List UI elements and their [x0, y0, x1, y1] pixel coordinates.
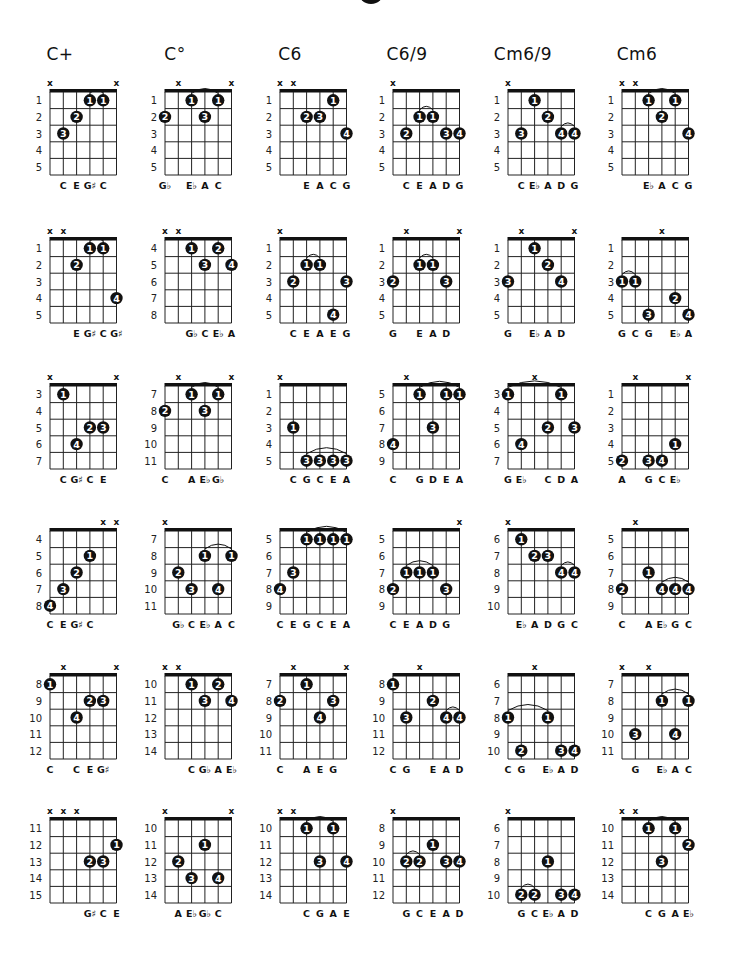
note-name: D — [557, 474, 565, 485]
chord-diagram: 12345xx1234GE♭AD — [478, 220, 588, 350]
fret-number: 12 — [372, 890, 385, 901]
note-name: C — [47, 764, 54, 775]
fret-number: 2 — [266, 260, 272, 271]
note-name: C — [290, 474, 297, 485]
finger-dot: 2 — [287, 275, 299, 287]
fret-number: 8 — [266, 696, 272, 707]
finger-dot: 1 — [427, 566, 439, 578]
svg-text:1: 1 — [416, 389, 423, 400]
fret-number: 3 — [608, 423, 614, 434]
fret-number: 6 — [494, 439, 500, 450]
svg-text:1: 1 — [290, 422, 297, 433]
note-name: C — [330, 180, 337, 191]
svg-text:4: 4 — [343, 856, 350, 867]
muted-string-icon: x — [114, 372, 120, 382]
fret-number: 2 — [494, 112, 500, 123]
note-name: C — [531, 908, 538, 919]
svg-text:3: 3 — [188, 584, 195, 595]
finger-dot: 2 — [669, 292, 681, 304]
svg-text:3: 3 — [60, 584, 67, 595]
finger-dot: 4 — [568, 889, 580, 901]
finger-dot: 4 — [682, 583, 694, 595]
note-name: C — [277, 619, 284, 630]
finger-dot: 2 — [542, 421, 554, 433]
svg-text:2: 2 — [545, 422, 552, 433]
fret-number: 10 — [601, 823, 614, 834]
muted-string-icon: x — [632, 372, 638, 382]
fret-number: 5 — [379, 310, 385, 321]
note-name: G — [303, 619, 311, 630]
note-name: C — [390, 619, 397, 630]
note-name: A — [645, 619, 653, 630]
note-name: C — [188, 764, 195, 775]
finger-dot: 2 — [274, 695, 286, 707]
note-name: C — [544, 474, 551, 485]
finger-dot: 1 — [528, 242, 540, 254]
fret-number: 5 — [494, 310, 500, 321]
muted-string-icon: x — [162, 517, 168, 527]
note-name: E♭ — [542, 764, 553, 775]
svg-text:2: 2 — [87, 856, 94, 867]
svg-text:4: 4 — [685, 584, 692, 595]
note-name: C — [100, 328, 107, 339]
fret-number: 5 — [266, 534, 272, 545]
note-name: A — [618, 474, 626, 485]
note-name: C — [86, 619, 93, 630]
svg-text:1: 1 — [430, 839, 437, 850]
chord-grid-svg: 1011121314xx1234CG♭AE♭ — [135, 656, 245, 786]
chord-diagram: 12345xx1123G♭E♭AC — [135, 72, 245, 202]
finger-dot: 1 — [212, 94, 224, 106]
muted-string-icon: x — [60, 226, 66, 236]
finger-dot: 2 — [616, 583, 628, 595]
finger-dot: 1 — [427, 259, 439, 271]
finger-dot: 3 — [440, 275, 452, 287]
finger-dot: 4 — [568, 566, 580, 578]
svg-text:4: 4 — [456, 712, 463, 723]
finger-dot: 2 — [172, 566, 184, 578]
note-name: C — [100, 180, 107, 191]
muted-string-icon: x — [505, 806, 511, 816]
fret-number: 3 — [379, 129, 385, 140]
svg-text:1: 1 — [416, 259, 423, 270]
fret-number: 4 — [494, 293, 500, 304]
muted-string-icon: x — [344, 662, 350, 672]
finger-dot: 2 — [427, 695, 439, 707]
chord-diagram: 34567x11234GE♭CDA — [478, 366, 588, 496]
finger-dot: 1 — [682, 695, 694, 707]
svg-text:2: 2 — [215, 243, 222, 254]
finger-dot: 1 — [387, 678, 399, 690]
finger-dot: 1 — [616, 275, 628, 287]
fret-number: 2 — [608, 260, 614, 271]
finger-dot: 1 — [642, 94, 654, 106]
muted-string-icon: x — [390, 806, 396, 816]
note-name: C — [645, 908, 652, 919]
note-name: E — [430, 908, 437, 919]
chord-grid-svg: 12345xx1234AGCE♭ — [592, 366, 702, 496]
chord-grid-svg: 12345xx1234GE♭AD — [478, 220, 588, 350]
finger-dot: 3 — [440, 855, 452, 867]
svg-text:3: 3 — [632, 729, 639, 740]
svg-text:1: 1 — [330, 95, 337, 106]
fret-number: 6 — [494, 534, 500, 545]
finger-dot: 3 — [642, 455, 654, 467]
note-name: A — [558, 764, 566, 775]
muted-string-icon: x — [229, 78, 235, 88]
fret-number: 11 — [601, 840, 614, 851]
svg-text:1: 1 — [659, 695, 666, 706]
svg-text:1: 1 — [87, 243, 94, 254]
svg-text:3: 3 — [659, 856, 666, 867]
note-name: G — [416, 474, 424, 485]
svg-text:3: 3 — [571, 422, 578, 433]
svg-text:2: 2 — [685, 839, 692, 850]
fret-number: 8 — [494, 857, 500, 868]
svg-text:1: 1 — [545, 712, 552, 723]
finger-dot: 3 — [542, 550, 554, 562]
fret-number: 3 — [379, 277, 385, 288]
finger-dot: 4 — [669, 728, 681, 740]
note-name: G♭ — [172, 619, 184, 630]
svg-text:1: 1 — [619, 276, 626, 287]
finger-dot: 2 — [515, 745, 527, 757]
finger-dot: 2 — [656, 111, 668, 123]
note-name: A — [188, 474, 196, 485]
fret-number: 5 — [608, 310, 614, 321]
